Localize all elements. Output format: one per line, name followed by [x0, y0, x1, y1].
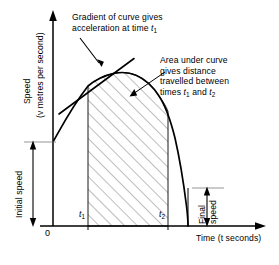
gradient-annotation-line1: Gradient of curve gives: [72, 12, 163, 22]
t2-tick-label: t2: [159, 209, 165, 221]
speed-time-graph-figure: Gradient of curve givesacceleration at t…: [0, 0, 279, 265]
t1-tick-label: t1: [79, 209, 85, 221]
gradient-annotation-text: Gradient of curve givesacceleration at t…: [72, 12, 163, 34]
area-annotation-line3: travelled between: [160, 76, 229, 86]
gradient-annotation-leader-arrow: [80, 38, 104, 67]
gradient-annotation-line2-sub: 1: [154, 27, 158, 34]
area-annotation-line1: Area under curve: [160, 55, 228, 65]
area-annotation-line4-sub1: 1: [186, 91, 190, 98]
initial-speed-measure: [24, 141, 56, 228]
area-annotation-line4-pre: times: [160, 87, 184, 97]
x-axis-label: Time (t seconds): [196, 233, 261, 244]
area-annotation-line4-sub2: 2: [212, 91, 216, 98]
t2-tick-label-sub: 2: [162, 213, 166, 220]
final-speed-label-word1: Final: [197, 205, 208, 224]
initial-speed-label: Initial speed: [14, 171, 25, 218]
final-speed-label-word2: speed: [208, 200, 219, 224]
origin-label: 0: [45, 228, 50, 239]
area-annotation-line4-mid: and: [190, 87, 210, 97]
area-annotation-line2: gives distance: [160, 66, 216, 76]
area-annotation-text: Area under curvegives distancetravelled …: [160, 55, 229, 98]
gradient-annotation-line2-pre: acceleration at time: [72, 23, 151, 33]
y-axis-label: Speed: [22, 79, 33, 104]
y-axis-units-label: (v metres per second): [35, 32, 46, 118]
y-axis: [49, 10, 57, 226]
t1-tick-label-sub: 1: [82, 213, 86, 220]
